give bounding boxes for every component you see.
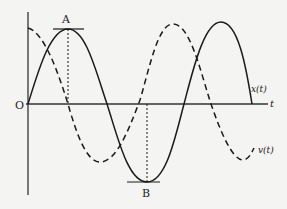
point-a-label: A xyxy=(61,13,71,26)
origin-label: O xyxy=(15,99,24,112)
velocity-label: v(t) xyxy=(258,145,274,155)
displacement-label: x(t) xyxy=(251,84,267,94)
shm-diagram: A B O t x(t) v(t) xyxy=(0,0,287,209)
point-b-label: B xyxy=(142,187,150,200)
